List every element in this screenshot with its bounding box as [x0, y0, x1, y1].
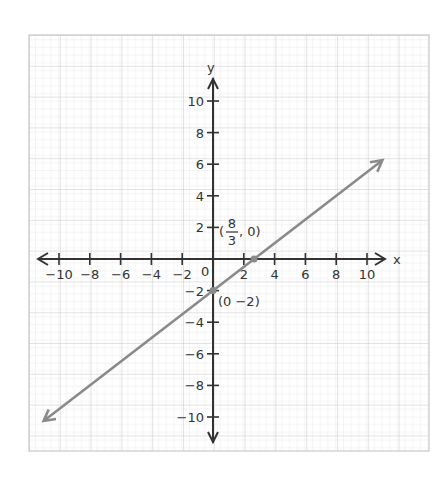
- x-intercept-label-rest: , 0): [239, 224, 261, 239]
- x-intercept-label-open: (: [219, 224, 224, 239]
- y-tick-label: 4: [196, 189, 204, 204]
- x-tick-label: 10: [359, 267, 376, 282]
- y-tick-label: −4: [185, 315, 204, 330]
- x-axis-label: x: [393, 252, 401, 267]
- x-tick-label: −2: [173, 267, 192, 282]
- y-axis-label: y: [207, 60, 215, 75]
- y-tick-label: 10: [187, 94, 204, 109]
- y-tick-label: 8: [196, 126, 204, 141]
- x-tick-label: 8: [332, 267, 340, 282]
- x-intercept-point: [251, 256, 258, 263]
- x-tick-label: 4: [270, 267, 278, 282]
- y-intercept-label: (0 −2): [218, 294, 260, 309]
- y-tick-label: −6: [185, 347, 204, 362]
- y-tick-label: −2: [185, 284, 204, 299]
- x-intercept-numerator: 8: [228, 216, 236, 231]
- y-tick-label: 6: [196, 157, 204, 172]
- y-tick-label: −10: [177, 410, 204, 425]
- x-intercept-denominator: 3: [228, 233, 236, 248]
- y-tick-label: −8: [185, 378, 204, 393]
- origin-label: 0: [201, 264, 209, 279]
- coordinate-plane: xy −10−8−6−4−2246810108642−2−4−6−8−100 (…: [0, 0, 448, 477]
- x-tick-label: −6: [111, 267, 130, 282]
- x-tick-label: −10: [45, 267, 72, 282]
- y-intercept-point: [210, 287, 217, 294]
- x-tick-label: −4: [142, 267, 161, 282]
- y-tick-label: 2: [196, 220, 204, 235]
- x-tick-label: 6: [301, 267, 309, 282]
- x-tick-label: −8: [80, 267, 99, 282]
